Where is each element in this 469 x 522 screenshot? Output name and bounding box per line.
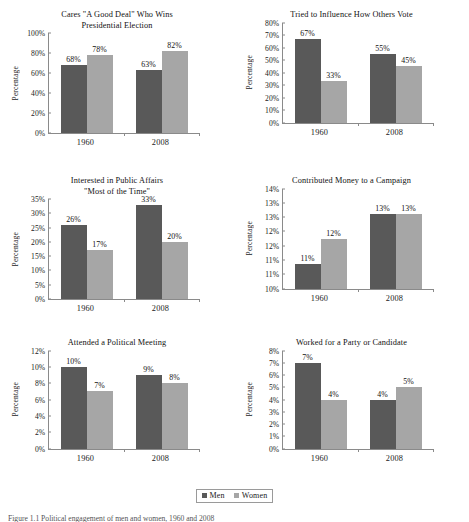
x-label-2008: 2008 [123,304,198,313]
bar-1960-men[interactable]: 67% [295,23,321,123]
y-tick-label: 4% [17,411,45,420]
bar-group-2008: 4%5% [358,351,433,449]
bar-group-2008: 63%82% [124,33,199,133]
y-tick-label: 40% [17,89,45,98]
x-axis-labels: 19602008 [48,138,198,147]
y-tick-label: 70% [251,31,279,40]
x-axis-labels: 19602008 [48,304,198,313]
bar-2008-women[interactable]: 45% [396,23,422,123]
y-tick-label: 12% [17,346,45,355]
plot-area-cares-good-deal: Percentage0%20%40%60%80%100%68%78%63%82%… [0,33,234,155]
bar-2008-men[interactable]: 33% [136,199,162,299]
axis-frame: 67%33%55%45% [282,23,433,124]
plot-area-interested-public-affairs: Percentage0%5%10%15%20%25%30%35%26%17%33… [0,199,234,321]
bar-1960-men[interactable]: 26% [61,199,87,299]
x-tick-mark [124,299,125,302]
y-tick-label: 14% [251,184,279,193]
legend-swatch-men [202,493,207,498]
legend-label-women: Women [242,491,268,500]
axis-frame: 26%17%33%20% [48,199,199,300]
plot-area-worked-for-party: Percentage0%1%2%3%4%5%6%7%8%7%4%4%5%1960… [234,351,469,471]
bar-2008-women[interactable]: 13% [396,189,422,289]
x-label-1960: 1960 [48,138,123,147]
bar-1960-women[interactable]: 12% [321,189,347,289]
x-label-1960: 1960 [282,128,357,137]
bar-2008-women[interactable]: 5% [396,351,422,449]
chart-title-line1: Worked for a Party or Candidate [296,338,407,347]
y-tick-label: 35% [17,195,45,204]
bar-rect [321,400,347,449]
chart-panel-attended-political-meeting: Attended a Political MeetingPercentage0%… [0,330,234,485]
chart-title-line1: Contributed Money to a Campaign [292,176,411,185]
bar-value-label: 33% [141,195,155,204]
bar-value-label: 5% [403,377,413,386]
chart-title-line1: Tried to Influence How Others Vote [290,10,412,19]
bar-rect [61,65,87,133]
bars-container: 10%7%9%8% [49,351,199,449]
y-tick-label: 1% [251,432,279,441]
bar-2008-men[interactable]: 4% [370,351,396,449]
chart-legend: Men Women [196,489,274,503]
chart-panel-interested-public-affairs: Interested in Public Affairs"Most of the… [0,170,234,330]
bar-1960-men[interactable]: 68% [61,33,87,133]
bar-rect [162,242,188,299]
x-label-2008: 2008 [123,138,198,147]
x-tick-mark [124,133,125,136]
bar-2008-women[interactable]: 82% [162,33,188,133]
y-tick-label: 6% [251,371,279,380]
bar-group-2008: 55%45% [358,23,433,123]
bar-1960-men[interactable]: 7% [295,351,321,449]
y-tick-label: 50% [251,56,279,65]
bar-rect [321,81,347,122]
y-tick-label: 13% [251,213,279,222]
bar-1960-men[interactable]: 10% [61,351,87,449]
bar-2008-men[interactable]: 63% [136,33,162,133]
x-tick-mark [358,289,359,292]
y-tick-label: 40% [251,68,279,77]
y-tick-label: 20% [17,109,45,118]
legend-item-men: Men [202,491,225,500]
bar-1960-women[interactable]: 33% [321,23,347,123]
bar-value-label: 45% [401,56,415,65]
y-tick-label: 8% [17,379,45,388]
x-tick-mark [358,123,359,126]
bar-rect [87,55,113,133]
bar-1960-women[interactable]: 4% [321,351,347,449]
bar-rect [321,239,347,289]
x-label-1960: 1960 [48,454,123,463]
y-axis-ticks: 10%11%11%12%12%13%13%14% [252,189,282,289]
bar-1960-women[interactable]: 17% [87,199,113,299]
y-tick-label: 80% [251,18,279,27]
y-tick-label: 0% [251,118,279,127]
chart-panel-cares-good-deal: Cares "A Good Deal" Who WinsPresidential… [0,0,234,170]
chart-panel-influence-others-vote: Tried to Influence How Others VotePercen… [234,0,469,170]
bar-group-1960: 7%4% [283,351,358,449]
bar-value-label: 17% [92,240,106,249]
bars-container: 7%4%4%5% [283,351,433,449]
figure-root: Cares "A Good Deal" Who WinsPresidential… [0,0,469,522]
chart-title-line1: Attended a Political Meeting [68,338,166,347]
bar-2008-men[interactable]: 13% [370,189,396,289]
x-tick-mark [358,449,359,452]
y-tick-label: 0% [251,444,279,453]
chart-panel-contributed-money: Contributed Money to a CampaignPercentag… [234,170,469,330]
x-label-1960: 1960 [282,454,357,463]
bar-2008-men[interactable]: 55% [370,23,396,123]
legend-label-men: Men [210,491,225,500]
bar-value-label: 82% [167,41,181,50]
y-tick-label: 12% [251,227,279,236]
bar-value-label: 78% [92,45,106,54]
y-tick-label: 11% [251,270,279,279]
bar-rect [370,400,396,449]
bar-2008-women[interactable]: 8% [162,351,188,449]
bar-rect [396,387,422,448]
y-axis-ticks: 0%1%2%3%4%5%6%7%8% [252,351,282,449]
bar-2008-men[interactable]: 9% [136,351,162,449]
bar-1960-women[interactable]: 7% [87,351,113,449]
bar-1960-women[interactable]: 78% [87,33,113,133]
bar-1960-men[interactable]: 11% [295,189,321,289]
y-tick-label: 25% [17,223,45,232]
bar-2008-women[interactable]: 20% [162,199,188,299]
legend-swatch-women [234,493,239,498]
bar-rect [87,250,113,299]
